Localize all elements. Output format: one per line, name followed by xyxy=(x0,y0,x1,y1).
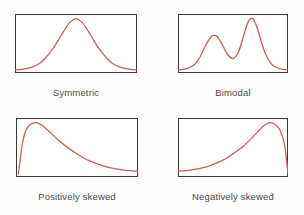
caption-bimodal: Bimodal xyxy=(178,87,288,98)
curve-negatively-skewed xyxy=(178,118,288,177)
caption-positively-skewed: Positively skewed xyxy=(16,191,138,202)
caption-symmetric: Symmetric xyxy=(15,87,137,98)
caption-negatively-skewed: Negatively skewed xyxy=(178,191,288,202)
curve-bimodal xyxy=(178,14,288,73)
curve-positively-skewed xyxy=(16,118,138,177)
panel-positively-skewed: Positively skewed xyxy=(16,118,138,208)
distribution-shapes-figure: Symmetric Bimodal Positively skewed Nega… xyxy=(0,0,304,215)
curve-symmetric xyxy=(15,14,137,73)
panel-bimodal: Bimodal xyxy=(178,14,288,104)
panel-negatively-skewed: Negatively skewed xyxy=(178,118,288,208)
panel-symmetric: Symmetric xyxy=(15,14,137,104)
